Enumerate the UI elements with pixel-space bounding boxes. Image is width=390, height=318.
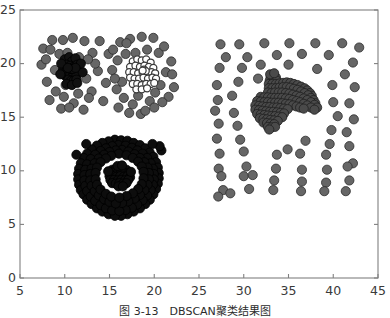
x-tick-label: 10 bbox=[57, 283, 73, 298]
data-point bbox=[296, 149, 305, 158]
data-point bbox=[297, 177, 306, 186]
data-point bbox=[349, 115, 358, 124]
data-point bbox=[342, 128, 351, 137]
data-point bbox=[239, 172, 248, 181]
data-point bbox=[74, 89, 83, 98]
data-point bbox=[345, 142, 354, 151]
data-point bbox=[243, 53, 252, 62]
data-point bbox=[229, 108, 238, 117]
data-point bbox=[46, 45, 55, 54]
data-point bbox=[158, 98, 167, 107]
data-point bbox=[169, 83, 178, 92]
data-point bbox=[233, 121, 242, 130]
data-point bbox=[320, 187, 329, 196]
data-point bbox=[269, 186, 278, 195]
data-point bbox=[56, 70, 65, 79]
data-point bbox=[245, 184, 254, 193]
data-point bbox=[217, 172, 226, 181]
data-point bbox=[110, 74, 119, 83]
data-point bbox=[121, 49, 130, 58]
data-point bbox=[324, 50, 333, 59]
data-point bbox=[65, 103, 74, 112]
data-point bbox=[73, 78, 82, 87]
data-point bbox=[265, 125, 274, 134]
data-point bbox=[108, 65, 117, 74]
data-point bbox=[242, 162, 251, 171]
plot-area: 510152025303540450510152025 bbox=[0, 2, 386, 298]
data-point bbox=[328, 80, 337, 89]
data-point bbox=[284, 60, 293, 69]
data-point bbox=[297, 49, 306, 58]
x-tick-label: 15 bbox=[102, 283, 118, 298]
data-point bbox=[297, 165, 306, 174]
x-tick-label: 35 bbox=[281, 283, 297, 298]
data-point bbox=[329, 98, 338, 107]
data-point bbox=[99, 97, 108, 106]
data-point bbox=[84, 93, 93, 102]
data-point bbox=[95, 36, 104, 45]
data-point bbox=[256, 60, 265, 69]
data-point bbox=[148, 139, 157, 148]
data-point bbox=[348, 58, 357, 67]
data-point bbox=[271, 164, 280, 173]
data-point bbox=[139, 67, 146, 74]
y-tick-label: 15 bbox=[0, 109, 16, 124]
y-tick-label: 25 bbox=[0, 2, 16, 17]
data-point bbox=[72, 150, 81, 159]
data-point bbox=[355, 43, 364, 52]
y-tick-label: 20 bbox=[0, 55, 16, 70]
data-point bbox=[236, 135, 245, 144]
data-point bbox=[333, 112, 342, 121]
data-point bbox=[41, 55, 50, 64]
scatter-plot: 510152025303540450510152025 bbox=[0, 0, 390, 318]
data-point bbox=[211, 106, 220, 115]
y-tick-label: 0 bbox=[8, 270, 16, 285]
data-point bbox=[228, 91, 237, 100]
data-point bbox=[321, 178, 330, 187]
data-point bbox=[350, 83, 359, 92]
data-point bbox=[213, 95, 222, 104]
data-point bbox=[118, 182, 127, 191]
data-point bbox=[144, 85, 151, 92]
data-point bbox=[128, 100, 137, 109]
data-point bbox=[237, 63, 246, 72]
data-point bbox=[82, 139, 91, 148]
data-point bbox=[260, 39, 269, 48]
y-tick-label: 10 bbox=[0, 162, 16, 177]
data-point bbox=[149, 33, 158, 42]
data-point bbox=[137, 32, 146, 41]
data-point bbox=[63, 63, 72, 72]
data-point bbox=[104, 167, 113, 176]
data-point bbox=[167, 57, 176, 66]
data-point bbox=[327, 125, 336, 134]
data-point bbox=[215, 63, 224, 72]
x-tick-label: 40 bbox=[325, 283, 341, 298]
data-point bbox=[114, 103, 123, 112]
data-point bbox=[272, 150, 281, 159]
data-point bbox=[325, 139, 334, 148]
data-point bbox=[141, 106, 150, 115]
data-point bbox=[283, 145, 292, 154]
x-tick-label: 25 bbox=[191, 283, 207, 298]
data-point bbox=[212, 80, 221, 89]
data-point bbox=[151, 79, 158, 86]
data-point bbox=[270, 69, 279, 78]
data-point bbox=[239, 147, 248, 156]
data-point bbox=[68, 33, 77, 42]
axes-background bbox=[20, 10, 378, 278]
data-point bbox=[296, 187, 305, 196]
x-tick-label: 20 bbox=[146, 283, 162, 298]
data-point bbox=[122, 39, 131, 48]
data-point bbox=[115, 193, 124, 202]
data-point bbox=[234, 77, 243, 86]
data-point bbox=[270, 176, 279, 185]
figure-container: 510152025303540450510152025 图 3-13 DBSCA… bbox=[0, 0, 390, 318]
data-point bbox=[51, 87, 60, 96]
data-point bbox=[322, 165, 331, 174]
data-point bbox=[108, 45, 117, 54]
data-point bbox=[341, 187, 350, 196]
data-point bbox=[214, 192, 223, 201]
y-tick-label: 5 bbox=[8, 216, 16, 231]
data-point bbox=[301, 136, 310, 145]
data-point bbox=[79, 105, 88, 114]
